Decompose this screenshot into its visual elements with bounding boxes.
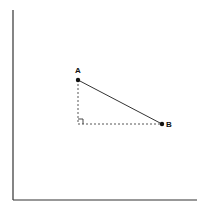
hypotenuse-line <box>78 80 162 124</box>
point-a <box>76 78 80 82</box>
diagram-canvas: A B <box>0 0 201 206</box>
right-triangle-diagram: A B <box>0 0 201 206</box>
right-angle-marker <box>78 119 83 124</box>
point-b <box>160 122 164 126</box>
label-b: B <box>166 120 172 129</box>
label-a: A <box>75 66 81 75</box>
